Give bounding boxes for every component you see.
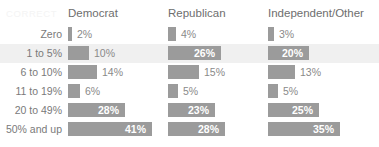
- column-header-republican: Republican: [168, 7, 226, 19]
- bar: [68, 46, 89, 60]
- bar: [168, 27, 176, 41]
- chart-row: Zero2%4%3%: [0, 25, 379, 44]
- bar: [68, 84, 80, 98]
- row-label: 20 to 49%: [0, 104, 62, 116]
- row-label: Zero: [0, 28, 62, 40]
- bar-value-label: 41%: [125, 124, 146, 135]
- bar-value-label: 28%: [198, 124, 219, 135]
- column-header-democrat: Democrat: [68, 7, 118, 19]
- bar: [268, 84, 278, 98]
- bar-value-label: 28%: [98, 105, 119, 116]
- chart-row: 6 to 10%14%15%13%: [0, 63, 379, 82]
- bar-value-label: 14%: [102, 67, 123, 78]
- bar-value-label: 20%: [282, 48, 303, 59]
- bar: [168, 84, 178, 98]
- corner-axis-label: CORRECT: [6, 8, 57, 19]
- row-label: 1 to 5%: [0, 47, 62, 59]
- row-label: 6 to 10%: [0, 66, 62, 78]
- column-header-independent-other: Independent/Other: [268, 7, 364, 19]
- bar-value-label: 23%: [188, 105, 209, 116]
- chart-header-row: CORRECT Democrat Republican Independent/…: [0, 7, 379, 24]
- bar: [68, 65, 97, 79]
- bar-value-label: 26%: [194, 48, 215, 59]
- bar-value-label: 2%: [77, 29, 92, 40]
- row-label: 50% and up: [0, 123, 62, 135]
- chart-row: 50% and up41%28%35%: [0, 120, 379, 139]
- bar-value-label: 6%: [85, 86, 100, 97]
- grouped-bar-chart: CORRECT Democrat Republican Independent/…: [0, 0, 379, 147]
- bar-value-label: 25%: [292, 105, 313, 116]
- bar: [268, 27, 274, 41]
- bar: [168, 65, 199, 79]
- bar-value-label: 5%: [283, 86, 298, 97]
- bar-value-label: 4%: [181, 29, 196, 40]
- bar-value-label: 5%: [183, 86, 198, 97]
- chart-row: 20 to 49%28%23%25%: [0, 101, 379, 120]
- bar-value-label: 35%: [313, 124, 334, 135]
- bar-value-label: 3%: [279, 29, 294, 40]
- bar-value-label: 13%: [300, 67, 321, 78]
- chart-row: 11 to 19%6%5%5%: [0, 82, 379, 101]
- bar: [68, 27, 72, 41]
- bar-value-label: 15%: [204, 67, 225, 78]
- bar: [268, 65, 295, 79]
- bar-value-label: 10%: [94, 48, 115, 59]
- chart-row: 1 to 5%10%26%20%: [0, 44, 379, 63]
- row-label: 11 to 19%: [0, 85, 62, 97]
